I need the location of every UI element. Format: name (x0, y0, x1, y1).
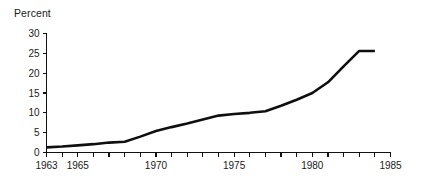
line-chart-plot: 051015202530 196319651970197519801985 (0, 0, 425, 179)
x-tick-label: 1965 (67, 160, 90, 171)
y-tick-label: 15 (28, 88, 40, 99)
x-tick-label: 1985 (379, 160, 402, 171)
x-tick-label: 1980 (301, 160, 324, 171)
y-tick-label: 30 (28, 28, 40, 39)
y-tick-label: 10 (28, 107, 40, 118)
y-tick-label: 5 (34, 127, 40, 138)
y-tick-label: 20 (28, 68, 40, 79)
x-tick-label: 1963 (35, 160, 58, 171)
y-axis: 051015202530 (28, 28, 46, 158)
chart-figure: Percent 051015202530 1963196519701975198… (0, 0, 425, 179)
x-tick-label: 1975 (223, 160, 246, 171)
y-tick-label: 0 (34, 147, 40, 158)
data-series-line (47, 51, 375, 147)
x-axis: 196319651970197519801985 (35, 153, 402, 172)
y-tick-label: 25 (28, 48, 40, 59)
x-tick-label: 1970 (145, 160, 168, 171)
